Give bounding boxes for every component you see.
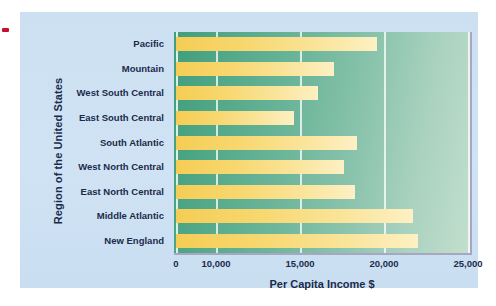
y-tick-label: Pacific xyxy=(50,38,164,49)
bar xyxy=(176,209,413,223)
x-tick-label: 25,000 xyxy=(453,258,482,269)
x-tick-label: 10,000 xyxy=(201,258,230,269)
bar xyxy=(176,234,418,248)
bar xyxy=(176,111,294,125)
bar xyxy=(176,185,355,199)
figure-root: Region of the United States PacificMount… xyxy=(0,0,496,306)
chart-panel: Region of the United States PacificMount… xyxy=(20,12,478,288)
red-margin-marker xyxy=(2,28,9,32)
y-tick-label: Mountain xyxy=(50,63,164,74)
y-tick-label: West North Central xyxy=(50,161,164,172)
x-tick-label: 20,000 xyxy=(369,258,398,269)
y-tick-label: East North Central xyxy=(50,186,164,197)
y-tick-label: West South Central xyxy=(50,87,164,98)
bar xyxy=(176,160,344,174)
bar xyxy=(176,62,334,76)
x-tick-label: 15,000 xyxy=(285,258,314,269)
y-tick-label: New England xyxy=(50,235,164,246)
bar xyxy=(176,136,357,150)
bar xyxy=(176,37,377,51)
y-axis-tick-labels: PacificMountainWest South CentralEast So… xyxy=(50,32,164,253)
gridline-25000 xyxy=(468,32,470,253)
y-tick-label: East South Central xyxy=(50,112,164,123)
y-tick-label: South Atlantic xyxy=(50,137,164,148)
y-tick-label: Middle Atlantic xyxy=(50,210,164,221)
x-axis-tick-labels: 010,00015,00020,00025,000 xyxy=(174,258,474,274)
bar xyxy=(176,86,318,100)
x-tick-label: 0 xyxy=(173,258,178,269)
x-axis-title: Per Capita Income $ xyxy=(174,278,470,290)
plot-area xyxy=(174,32,472,255)
